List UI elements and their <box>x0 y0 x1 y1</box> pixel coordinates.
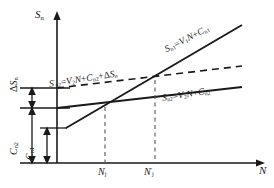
intersection-droplines-group <box>105 80 155 163</box>
y-axis-arrow-icon <box>53 11 60 20</box>
chart-canvas <box>0 0 274 188</box>
series-line-sn2 <box>57 87 242 108</box>
annotation-cn2: Cn2 <box>9 142 20 155</box>
bracket-cn1-arrow-down-icon <box>44 157 50 163</box>
tick-label-nj: Nj <box>98 167 106 178</box>
chart-figure: Sn N Nj N′j ΔSn Cn2 Cn1 Sn1=V1N+Cn1 S′n2… <box>0 0 274 188</box>
bracket-cn1-arrow-up-icon <box>44 128 50 134</box>
tick-label-nj-prime: N′j <box>144 167 154 178</box>
bracket-cn2-arrow-up-icon <box>29 108 35 114</box>
annotation-cn1: Cn1 <box>25 147 36 160</box>
axis-x-label: N <box>259 165 266 176</box>
bracket-delta-sn-arrow-up-icon <box>29 88 35 94</box>
annotation-delta-sn: ΔSn <box>9 77 20 92</box>
axis-y-label: Sn <box>35 9 44 21</box>
